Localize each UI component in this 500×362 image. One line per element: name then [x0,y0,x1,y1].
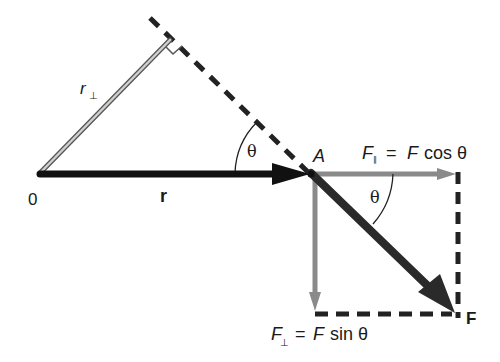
F-parallel-arrow [312,168,456,180]
F-vector-label: F [466,309,476,328]
F-vector-arrow [311,173,455,313]
F-perp-equals: = [295,324,306,344]
origin-label: 0 [28,190,37,209]
F-perp-arrow [309,174,321,311]
line-of-action [150,18,312,176]
F-parallel-rhs-var: F [407,143,419,163]
F-perp-sub: ⊥ [280,337,289,348]
F-perp-equation: F ⊥ = F sin θ [271,324,368,348]
F-parallel-sub: ∥ [373,155,377,164]
torque-diagram: 0 r r ⊥ θ A F ∥ = F cos θ θ F F ⊥ = F si… [0,0,500,362]
theta-label-r: θ [247,142,257,161]
theta-label-F: θ [370,188,380,207]
r-perp-label: r ⊥ [80,79,98,101]
F-perp-rhs-var: F [313,324,325,344]
F-parallel-equals: = [386,143,397,163]
point-A-marker [308,171,315,178]
r-perp-label-main: r [80,79,87,98]
F-perp-rhs-func: sin θ [330,324,368,344]
r-vector-label: r [160,186,167,206]
point-A-label: A [312,146,325,166]
F-parallel-equation: F ∥ = F cos θ [362,143,467,164]
r-perp-label-sub: ⊥ [89,90,98,101]
r-vector-arrow [40,163,310,185]
r-perp-line [40,40,170,173]
F-parallel-rhs-func: cos θ [424,143,467,163]
